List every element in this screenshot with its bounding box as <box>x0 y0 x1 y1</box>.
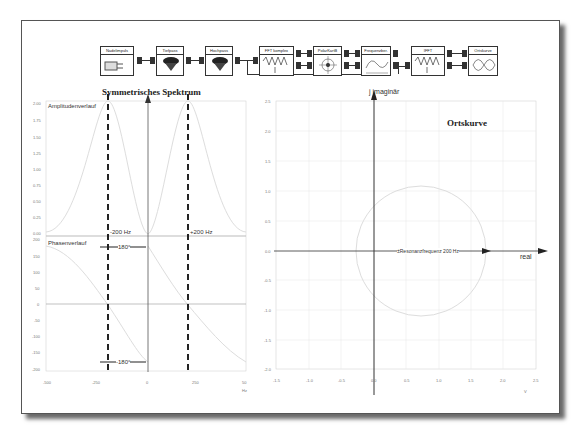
resonance-label: ±Resonanzfrequenz 200 Hz <box>397 248 459 254</box>
ortskurve-title: Ortskurve <box>447 118 487 128</box>
ortskurve-chart <box>0 0 560 420</box>
real-axis-label: real <box>520 253 532 260</box>
imaginary-axis-label: j imaginär <box>369 88 399 95</box>
